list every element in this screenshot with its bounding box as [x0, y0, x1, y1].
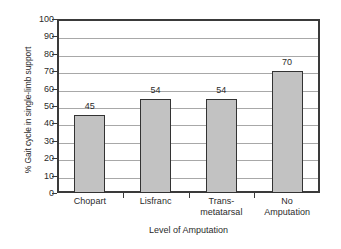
y-tick-label: 20: [14, 153, 54, 163]
x-tick-label: Lisfranc: [140, 196, 172, 207]
y-tick-label: 100: [14, 14, 54, 24]
x-tick-mark: [254, 193, 255, 198]
y-tick-mark: [52, 89, 57, 90]
y-tick-mark: [52, 36, 57, 37]
x-tick-mark: [123, 193, 124, 198]
y-tick-label: 90: [14, 31, 54, 41]
x-tick-label-line2: metatarsal: [200, 207, 242, 218]
y-tick-mark: [52, 71, 57, 72]
bar: [206, 99, 237, 193]
y-tick-label: 80: [14, 49, 54, 59]
y-tick-label: 10: [14, 171, 54, 181]
bar-chart-figure: % Gait cycle in single-limb support 0102…: [0, 0, 341, 249]
bar: [74, 115, 105, 193]
x-tick-label: Chopart: [74, 196, 106, 207]
bar: [140, 99, 171, 193]
y-tick-mark: [52, 123, 57, 124]
y-tick-mark: [52, 176, 57, 177]
x-axis-title: Level of Amputation: [57, 225, 320, 235]
y-tick-label: 60: [14, 84, 54, 94]
bar-value-label: 70: [282, 57, 292, 67]
bar-value-label: 45: [85, 101, 95, 111]
y-tick-mark: [52, 193, 57, 194]
y-tick-label: 0: [14, 188, 54, 198]
bar: [272, 71, 303, 193]
y-tick-label: 50: [14, 101, 54, 111]
x-tick-label-line2: Amputation: [264, 207, 310, 218]
gridline: [59, 56, 318, 57]
y-tick-mark: [52, 19, 57, 20]
y-tick-mark: [52, 54, 57, 55]
y-tick-mark: [52, 106, 57, 107]
bar-value-label: 54: [151, 85, 161, 95]
y-tick-mark: [52, 141, 57, 142]
x-tick-mark: [189, 193, 190, 198]
y-tick-label: 70: [14, 66, 54, 76]
y-tick-mark: [52, 158, 57, 159]
y-tick-label: 40: [14, 118, 54, 128]
bar-value-label: 54: [216, 85, 226, 95]
gridline: [59, 38, 318, 39]
y-tick-label: 30: [14, 136, 54, 146]
x-tick-label: NoAmputation: [264, 196, 310, 218]
x-tick-label: Trans-metatarsal: [200, 196, 242, 218]
